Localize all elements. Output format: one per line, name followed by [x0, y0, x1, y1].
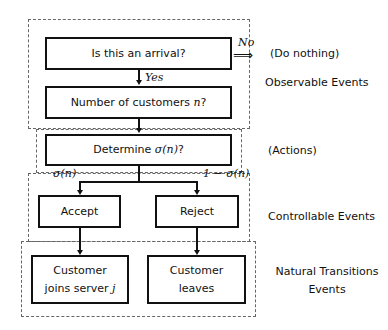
determine-label: Determine σ(n)?	[93, 141, 184, 159]
branch-line	[79, 181, 198, 183]
accept-label: Accept	[61, 203, 99, 221]
edge-reject-to-leaves	[196, 228, 198, 250]
edge-accept-to-joins	[79, 228, 81, 250]
reject-label: Reject	[180, 203, 214, 221]
edge-branch-to-accept	[79, 181, 81, 190]
reject-node: Reject	[155, 195, 239, 228]
label-do-nothing: (Do nothing)	[270, 45, 339, 63]
double-arrow-icon: ⟹	[233, 48, 253, 62]
arrowhead-icon	[77, 250, 83, 255]
edge-label-sigma: σ(n)	[53, 167, 76, 180]
customers-count-node: Number of customers n?	[45, 86, 232, 119]
label-actions: (Actions)	[268, 142, 317, 160]
edge-branch-to-reject	[196, 181, 198, 190]
determine-node: Determine σ(n)?	[45, 134, 232, 166]
label-observable-events: Observable Events	[265, 74, 368, 92]
label-controllable-events: Controllable Events	[268, 208, 375, 226]
label-natural-transitions: Natural Transitions Events	[272, 263, 382, 299]
arrival-node-label: Is this an arrival?	[91, 45, 185, 63]
customer-joins-node: Customer joins server j	[31, 255, 129, 304]
edge-label-yes: Yes	[145, 71, 163, 84]
edge-determine-to-branch	[138, 166, 140, 182]
edge-label-one-minus-sigma: 1 − σ(n)	[203, 167, 249, 180]
customers-count-label: Number of customers n?	[71, 94, 207, 112]
arrowhead-icon	[136, 128, 142, 133]
arrowhead-icon	[194, 250, 200, 255]
arrowhead-icon	[194, 190, 200, 195]
customer-leaves-node: Customer leaves	[147, 255, 246, 304]
arrowhead-icon	[77, 190, 83, 195]
accept-node: Accept	[38, 195, 121, 228]
edge-label-no: No	[238, 36, 254, 49]
arrival-node: Is this an arrival?	[45, 37, 232, 70]
arrowhead-icon	[136, 80, 142, 85]
